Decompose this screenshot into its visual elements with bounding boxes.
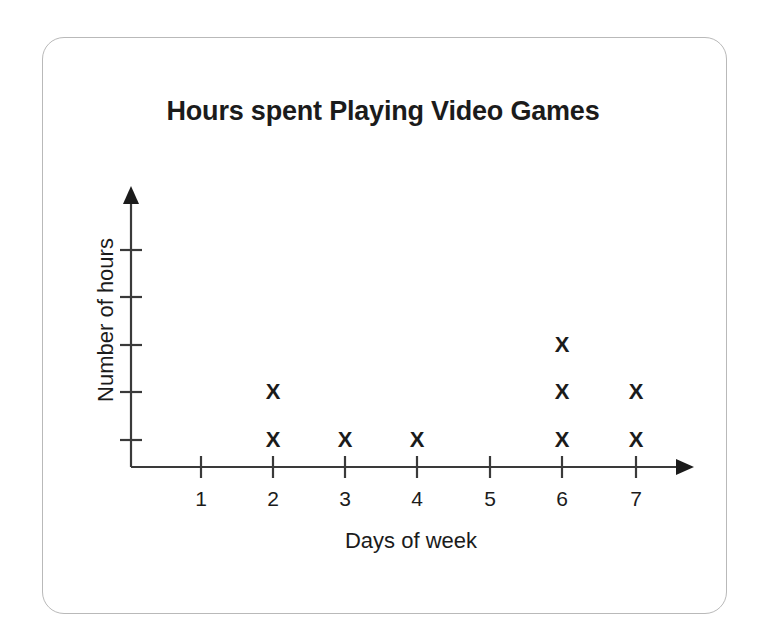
x-tick-label-5: 5 [470, 487, 510, 511]
x-axis-arrow-icon [676, 459, 694, 475]
data-point-marker: X [258, 425, 288, 455]
data-point-marker: X [330, 425, 360, 455]
x-tick-label-1: 1 [181, 487, 221, 511]
chart-page: Hours spent Playing Video Games Number o… [0, 0, 766, 642]
data-point-marker: X [402, 425, 432, 455]
x-axis-title: Days of week [131, 528, 691, 554]
data-point-marker: X [258, 377, 288, 407]
y-axis-arrow-icon [123, 186, 139, 204]
x-tick-label-2: 2 [253, 487, 293, 511]
data-point-marker: X [621, 377, 651, 407]
data-point-marker: X [547, 425, 577, 455]
x-tick-label-7: 7 [616, 487, 656, 511]
data-point-marker: X [547, 377, 577, 407]
data-point-marker: X [621, 425, 651, 455]
x-tick-label-6: 6 [542, 487, 582, 511]
x-tick-label-4: 4 [397, 487, 437, 511]
data-point-marker: X [547, 330, 577, 360]
y-axis-title: Number of hours [93, 190, 119, 450]
x-tick-label-3: 3 [325, 487, 365, 511]
